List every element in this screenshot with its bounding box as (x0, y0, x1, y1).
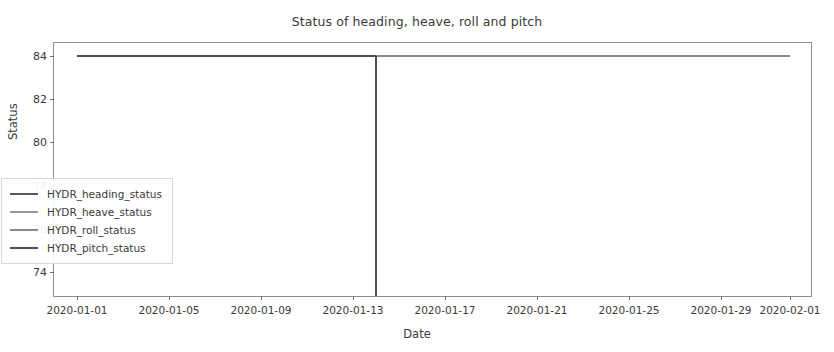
chart-legend: HYDR_heading_statusHYDR_heave_statusHYDR… (1, 178, 173, 264)
chart-title: Status of heading, heave, roll and pitch (0, 14, 834, 29)
legend-item[interactable]: HYDR_roll_status (10, 221, 162, 239)
x-tick-label: 2020-01-17 (414, 304, 475, 316)
series-segment (375, 56, 377, 296)
x-tick-mark (721, 296, 722, 300)
y-tick-mark (50, 142, 54, 143)
x-tick-label: 2020-01-25 (598, 304, 659, 316)
x-tick-label: 2020-01-01 (46, 304, 107, 316)
x-tick-label: 2020-02-01 (759, 304, 820, 316)
x-tick-mark (261, 296, 262, 300)
y-tick-label: 74 (33, 266, 47, 279)
x-tick-mark (629, 296, 630, 300)
y-tick-label: 80 (33, 136, 47, 149)
series-segment (77, 55, 376, 57)
x-tick-label: 2020-01-05 (138, 304, 199, 316)
x-tick-label: 2020-01-09 (230, 304, 291, 316)
legend-line-icon (10, 211, 38, 213)
y-tick-label: 82 (33, 93, 47, 106)
x-tick-mark (169, 296, 170, 300)
legend-item[interactable]: HYDR_pitch_status (10, 239, 162, 257)
legend-item-label: HYDR_pitch_status (47, 242, 146, 254)
legend-item-label: HYDR_roll_status (47, 224, 136, 236)
x-tick-mark (790, 296, 791, 300)
y-tick-mark (50, 56, 54, 57)
legend-line-icon (10, 247, 38, 249)
y-tick-label: 84 (33, 49, 47, 62)
legend-item[interactable]: HYDR_heading_status (10, 185, 162, 203)
x-axis-label: Date (0, 327, 834, 341)
legend-line-icon (10, 229, 38, 231)
legend-item[interactable]: HYDR_heave_status (10, 203, 162, 221)
x-tick-label: 2020-01-13 (322, 304, 383, 316)
x-tick-mark (77, 296, 78, 300)
legend-line-icon (10, 193, 38, 195)
chart-figure: Status of heading, heave, roll and pitch… (0, 0, 834, 352)
y-tick-mark (50, 272, 54, 273)
legend-item-label: HYDR_heave_status (47, 206, 152, 218)
legend-item-label: HYDR_heading_status (47, 188, 162, 200)
y-tick-mark (50, 99, 54, 100)
x-tick-label: 2020-01-29 (690, 304, 751, 316)
x-tick-mark (445, 296, 446, 300)
x-tick-mark (537, 296, 538, 300)
y-axis-label: Status (6, 103, 20, 140)
x-tick-mark (353, 296, 354, 300)
x-tick-label: 2020-01-21 (506, 304, 567, 316)
